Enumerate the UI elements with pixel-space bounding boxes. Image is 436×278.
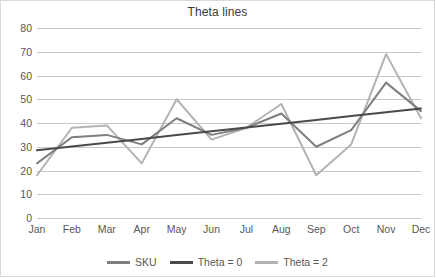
y-tick-label: 80 <box>20 22 32 34</box>
x-tick-label: Nov <box>377 223 396 235</box>
plot-area: 01020304050607080 JanFebMarAprMayJunJulA… <box>37 28 421 218</box>
y-tick-label: 60 <box>20 70 32 82</box>
x-tick-label: Jan <box>29 223 46 235</box>
legend-item[interactable]: Theta = 0 <box>170 256 243 268</box>
y-tick-label: 10 <box>20 188 32 200</box>
y-tick-label: 20 <box>20 165 32 177</box>
chart-title: Theta lines <box>1 5 434 19</box>
legend-item[interactable]: SKU <box>107 256 157 268</box>
gridline <box>37 218 421 219</box>
chart-container: Theta lines 01020304050607080 JanFebMarA… <box>0 0 435 277</box>
x-tick-label: Mar <box>98 223 116 235</box>
x-tick-label: Sep <box>307 223 326 235</box>
x-tick-label: Feb <box>63 223 81 235</box>
x-tick-label: Jul <box>240 223 253 235</box>
y-tick-label: 50 <box>20 93 32 105</box>
y-tick-label: 40 <box>20 117 32 129</box>
legend-label: Theta = 2 <box>283 256 328 268</box>
series-line-sku <box>37 83 421 164</box>
x-tick-label: Oct <box>343 223 359 235</box>
x-tick-label: Jun <box>203 223 220 235</box>
legend-swatch-icon <box>107 261 130 264</box>
series-line-theta-0 <box>37 109 421 151</box>
chart-legend: SKUTheta = 0Theta = 2 <box>1 256 434 268</box>
y-tick-label: 70 <box>20 46 32 58</box>
legend-label: Theta = 0 <box>198 256 243 268</box>
y-tick-label: 30 <box>20 141 32 153</box>
x-tick-label: Apr <box>134 223 150 235</box>
legend-swatch-icon <box>170 261 193 264</box>
x-tick-label: Aug <box>272 223 291 235</box>
series-lines <box>37 28 421 218</box>
x-tick-label: Dec <box>412 223 431 235</box>
legend-item[interactable]: Theta = 2 <box>255 256 328 268</box>
x-tick-label: May <box>167 223 187 235</box>
legend-swatch-icon <box>255 261 278 264</box>
legend-label: SKU <box>135 256 157 268</box>
